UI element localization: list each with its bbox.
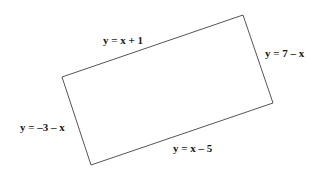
- rectangle-outline: [62, 15, 273, 165]
- rectangle-diagram: y = x + 1 y = 7 – x y = –3 – x y = x – 5: [0, 0, 327, 174]
- label-top-edge: y = x + 1: [103, 34, 143, 46]
- label-left-edge: y = –3 – x: [20, 121, 65, 133]
- label-bottom-edge: y = x – 5: [173, 142, 213, 154]
- label-right-edge: y = 7 – x: [265, 47, 305, 59]
